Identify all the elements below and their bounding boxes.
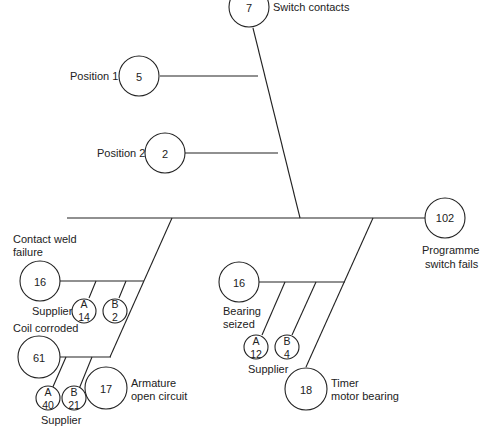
svg-text:Switch contacts: Switch contacts — [273, 1, 350, 13]
svg-text:Contact weld: Contact weld — [13, 233, 77, 245]
coil-corroded-node: 61 Coil corroded — [13, 322, 78, 378]
svg-text:switch fails: switch fails — [425, 258, 479, 270]
bs-supplier-a-connector — [262, 282, 285, 335]
cw-supplier-a-node: A 14 — [72, 298, 96, 323]
svg-text:18: 18 — [300, 384, 312, 396]
svg-text:failure: failure — [13, 246, 43, 258]
svg-text:Coil corroded: Coil corroded — [13, 322, 78, 334]
armature-branch — [110, 218, 172, 357]
svg-text:Programme: Programme — [422, 244, 479, 256]
svg-text:motor bearing: motor bearing — [331, 390, 399, 402]
svg-text:17: 17 — [100, 383, 112, 395]
fault-tree-diagram: 102 Programme switch fails 7 Switch cont… — [0, 0, 482, 433]
bearing-seized-node: 16 Bearing seized — [219, 262, 261, 330]
switch-contacts-node: 7 Switch contacts — [229, 0, 350, 27]
cc-supplier-a-node: A 40 — [36, 386, 60, 411]
svg-text:2: 2 — [162, 148, 168, 160]
svg-text:61: 61 — [33, 352, 45, 364]
position-2-node: 2 Position 2 — [97, 133, 185, 173]
top-event-node: 102 Programme switch fails — [422, 198, 479, 270]
cc-supplier-label: Supplier — [41, 414, 82, 426]
svg-text:B: B — [70, 386, 77, 398]
bs-supplier-b-connector — [292, 282, 316, 335]
svg-text:Timer: Timer — [331, 377, 359, 389]
svg-text:21: 21 — [68, 399, 80, 411]
svg-text:14: 14 — [78, 311, 90, 323]
bs-supplier-label: Supplier — [248, 363, 289, 375]
svg-text:open circuit: open circuit — [131, 390, 187, 402]
svg-text:5: 5 — [136, 71, 142, 83]
bs-supplier-a-node: A 12 — [244, 335, 268, 360]
svg-text:B: B — [111, 298, 118, 310]
armature-node: 17 Armature open circuit — [85, 367, 187, 409]
svg-text:16: 16 — [34, 276, 46, 288]
svg-text:A: A — [252, 335, 259, 347]
svg-text:16: 16 — [233, 277, 245, 289]
svg-text:7: 7 — [246, 2, 252, 14]
svg-text:A: A — [80, 298, 87, 310]
svg-text:40: 40 — [42, 399, 54, 411]
svg-text:A: A — [44, 386, 51, 398]
cw-supplier-b-connector — [119, 281, 126, 298]
svg-text:Position 2: Position 2 — [97, 147, 145, 159]
contact-weld-node: 16 Contact weld failure — [13, 233, 77, 301]
svg-text:Bearing: Bearing — [223, 305, 261, 317]
position-1-node: 5 Position 1 — [70, 56, 159, 96]
svg-text:Position 1: Position 1 — [70, 70, 118, 82]
svg-text:seized: seized — [223, 318, 255, 330]
cw-supplier-a-connector — [89, 281, 96, 298]
svg-text:2: 2 — [112, 311, 118, 323]
svg-text:12: 12 — [250, 348, 262, 360]
svg-text:Armature: Armature — [131, 377, 176, 389]
svg-text:102: 102 — [436, 212, 454, 224]
svg-text:4: 4 — [284, 348, 290, 360]
switch-contacts-branch — [253, 28, 300, 218]
timer-motor-branch — [306, 218, 373, 367]
cc-supplier-b-node: B 21 — [62, 386, 86, 411]
cw-supplier-label: Supplier — [32, 305, 73, 317]
cw-supplier-b-node: B 2 — [103, 298, 127, 323]
svg-text:B: B — [283, 335, 290, 347]
bs-supplier-b-node: B 4 — [275, 335, 299, 360]
timer-motor-node: 18 Timer motor bearing — [285, 368, 399, 410]
